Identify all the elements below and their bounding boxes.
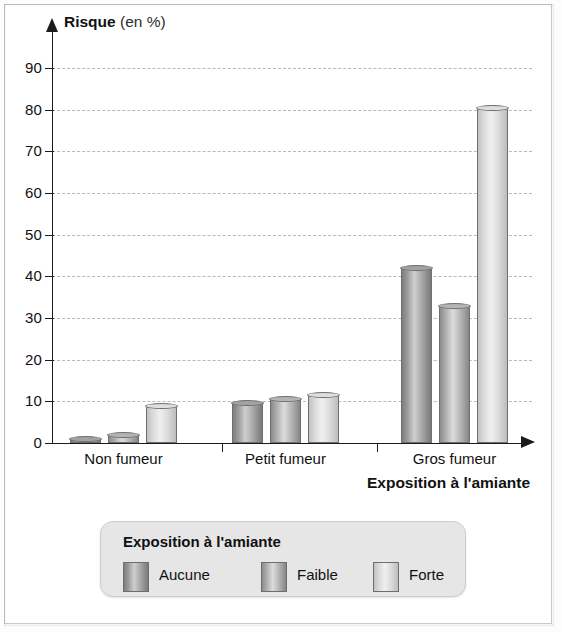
bar-petit-fumeur-aucune [232,403,263,443]
chart-legend: Exposition à l'amiante AucuneFaibleForte [100,521,466,597]
bar-cap [107,432,140,438]
y-tick-label-30: 30 [12,309,42,326]
y-tick-label-90: 90 [12,59,42,76]
y-tick-mark-20 [45,360,54,361]
category-label-petit-fumeur: Petit fumeur [202,450,369,467]
y-tick-mark-40 [45,276,54,277]
bar-non-fumeur-aucune [70,439,101,443]
legend-title: Exposition à l'amiante [123,533,281,550]
chart-page: Risque (en %) 0102030405060708090 Non fu… [0,0,562,632]
y-tick-mark-80 [45,110,54,111]
y-axis-title: Risque (en %) [64,13,166,31]
gridline-80 [52,110,532,111]
bar-cap [400,265,433,271]
bar-body [270,399,301,443]
x-axis-arrow-icon [521,436,535,448]
gridline-70 [52,151,532,152]
bar-body [401,268,432,443]
y-tick-label-80: 80 [12,101,42,118]
y-tick-label-60: 60 [12,184,42,201]
y-axis-title-unit: (en %) [120,13,166,30]
gridline-90 [52,68,532,69]
category-label-gros-fumeur: Gros fumeur [371,450,538,467]
bar-petit-fumeur-forte [308,395,339,443]
category-label-non-fumeur: Non fumeur [40,450,207,467]
bar-body [439,306,470,444]
bar-non-fumeur-forte [146,406,177,444]
bar-cap [476,105,509,111]
x-axis-title: Exposition à l'amiante [0,474,548,492]
category-separator-2 [377,443,378,452]
bar-cap [69,436,102,442]
y-tick-mark-70 [45,151,54,152]
bar-body [146,406,177,444]
bar-body [232,403,263,443]
bar-gros-fumeur-faible [439,306,470,444]
category-separator-1 [222,443,223,452]
y-tick-mark-10 [45,401,54,402]
bar-body [477,108,508,443]
bar-body [308,395,339,443]
y-tick-label-0: 0 [12,434,42,451]
legend-swatch-aucune [123,562,149,592]
y-tick-mark-0 [45,443,54,444]
legend-swatch-forte [373,562,399,592]
y-tick-mark-60 [45,193,54,194]
gridline-60 [52,193,532,194]
legend-label-faible: Faible [297,566,338,583]
gridline-50 [52,235,532,236]
y-tick-label-10: 10 [12,392,42,409]
bar-petit-fumeur-faible [270,399,301,443]
y-axis-title-main: Risque [64,13,116,30]
y-tick-label-20: 20 [12,351,42,368]
y-tick-mark-50 [45,235,54,236]
y-tick-label-50: 50 [12,226,42,243]
legend-label-forte: Forte [409,566,444,583]
bar-cap [438,303,471,309]
bar-gros-fumeur-aucune [401,268,432,443]
x-axis-line [52,443,524,444]
bar-cap [145,403,178,409]
y-tick-label-70: 70 [12,142,42,159]
bar-non-fumeur-faible [108,435,139,443]
y-axis-line [52,30,53,444]
y-tick-mark-90 [45,68,54,69]
gridline-40 [52,276,532,277]
y-tick-label-40: 40 [12,267,42,284]
bar-gros-fumeur-forte [477,108,508,443]
y-tick-mark-30 [45,318,54,319]
legend-swatch-faible [261,562,287,592]
legend-label-aucune: Aucune [159,566,210,583]
